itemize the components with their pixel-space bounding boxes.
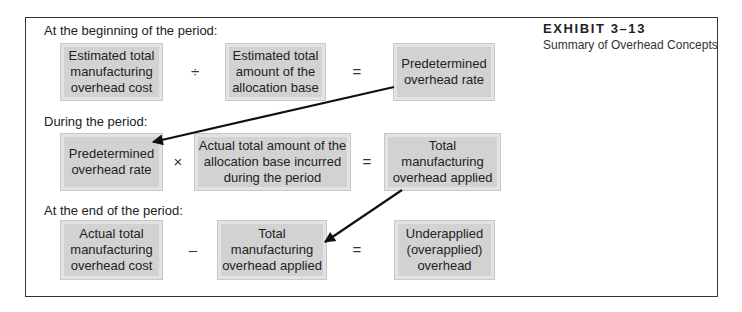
arrows-layer <box>0 0 742 312</box>
arrow-rate-carryover <box>153 87 394 142</box>
arrow-applied-carryover <box>325 190 402 242</box>
